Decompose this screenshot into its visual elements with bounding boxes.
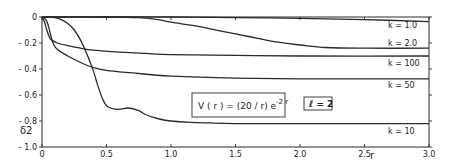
x-tick-label: 1.0 — [165, 150, 178, 159]
x-tick-label: 2.0 — [294, 150, 307, 159]
ell-text: ℓ = 2 — [308, 99, 333, 109]
plot-area-border — [42, 17, 429, 147]
formula-annotation: V ( r ) = (20 / r) e-2 r — [192, 93, 288, 117]
plot-frame — [42, 17, 429, 147]
y-axis-label: δ2 — [20, 125, 32, 136]
ell-annotation: ℓ = 2 — [304, 97, 333, 110]
series-label: k = 2.0 — [388, 39, 417, 48]
x-tick-label: 1.5 — [229, 150, 242, 159]
series-label: k = 50 — [388, 81, 415, 90]
series-curve — [42, 17, 429, 56]
x-tick-label: 0.5 — [100, 150, 113, 159]
x-tick-label: 3.0 — [423, 150, 436, 159]
series-label: k = 1.0 — [388, 21, 417, 30]
series-label: k = 100 — [388, 59, 420, 68]
series-label: k = 10 — [388, 127, 415, 136]
axis-ticks: 00.51.01.52.02.53.00- 0.2- 0.4- 0.6- 0.8… — [19, 13, 436, 159]
y-tick-label: - 1.0 — [19, 143, 37, 152]
x-axis-label: r — [370, 150, 375, 161]
line-chart: 00.51.01.52.02.53.00- 0.2- 0.4- 0.6- 0.8… — [0, 0, 450, 164]
x-tick-label: 0 — [39, 150, 44, 159]
y-tick-label: - 0.4 — [19, 65, 37, 74]
y-tick-label: - 0.2 — [19, 39, 37, 48]
y-tick-label: - 0.6 — [19, 91, 37, 100]
series-curve — [42, 17, 429, 48]
x-tick-label: 2.5 — [358, 150, 371, 159]
y-tick-label: 0 — [32, 13, 37, 22]
